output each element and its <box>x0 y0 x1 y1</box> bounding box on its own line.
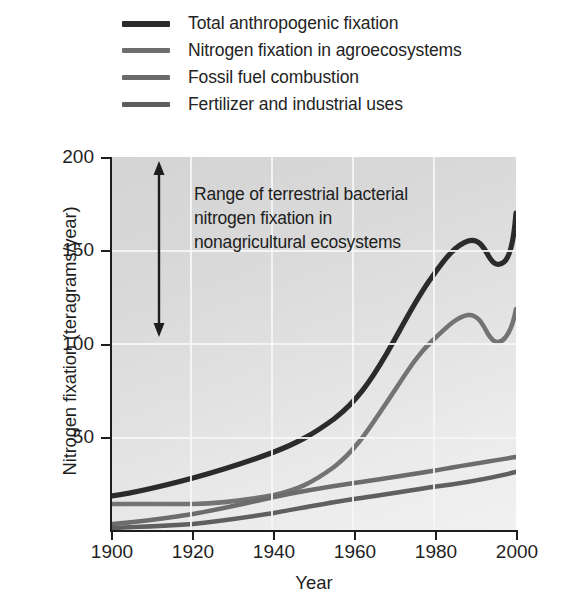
x-axis-tick <box>111 530 113 540</box>
range-arrow-icon <box>148 160 170 338</box>
chart-figure: 200 150 100 50 1900 1920 1940 1960 1980 … <box>0 0 574 611</box>
y-axis-title: Nitrogen fixation (teragrams/year) <box>59 151 81 531</box>
x-axis-line <box>110 530 518 532</box>
x-axis-tick-label: 1920 <box>153 541 233 563</box>
x-axis-title: Year <box>112 572 516 594</box>
x-axis-tick-label: 1900 <box>72 541 152 563</box>
x-axis-tick <box>435 530 437 540</box>
y-axis-tick <box>101 250 111 252</box>
series-line-fossil-fuel-combustion <box>112 457 516 524</box>
y-axis-tick <box>101 157 111 159</box>
x-axis-tick-label: 1960 <box>315 541 395 563</box>
x-axis-tick <box>192 530 194 540</box>
y-axis-tick <box>101 344 111 346</box>
x-axis-tick-label: 1940 <box>234 541 314 563</box>
gridline-horizontal <box>112 437 516 439</box>
series-line-total-anthropogenic-fixation <box>112 213 516 496</box>
x-axis-tick <box>273 530 275 540</box>
gridline-horizontal <box>112 343 516 345</box>
x-axis-tick-label: 1980 <box>396 541 476 563</box>
y-axis-tick <box>101 437 111 439</box>
x-axis-tick-label: 2000 <box>477 541 557 563</box>
series-line-nitrogen-fixation-in-agroecosystems <box>112 309 516 504</box>
x-axis-tick <box>516 530 518 540</box>
x-axis-tick <box>354 530 356 540</box>
range-annotation-label: Range of terrestrial bacterial nitrogen … <box>194 182 409 254</box>
